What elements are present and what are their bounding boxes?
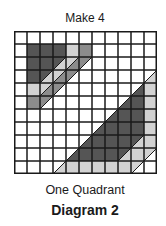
diagram-title: Make 4 (0, 11, 166, 25)
grid-cell (105, 161, 118, 174)
diagram-label: Diagram 2 (0, 202, 166, 218)
grid-cell (131, 109, 144, 122)
grid-cell (144, 135, 157, 148)
quadrant-caption: One Quadrant (0, 183, 166, 197)
grid-cell (92, 148, 105, 161)
grid-drawing (14, 31, 157, 174)
grid-cell (105, 148, 118, 161)
grid-cell (27, 44, 40, 57)
grid-cell (131, 122, 144, 135)
grid-cell (92, 135, 105, 148)
grid-cell (144, 96, 157, 109)
grid-cell (27, 83, 40, 96)
grid-cell (92, 161, 105, 174)
grid-cell (131, 96, 144, 109)
grid-cell (118, 122, 131, 135)
grid-cell (79, 161, 92, 174)
grid-cell (105, 135, 118, 148)
grid-cell (131, 148, 144, 161)
grid-cell (53, 44, 66, 57)
grid-cell (40, 44, 53, 57)
grid-cell (118, 161, 131, 174)
grid-cell (40, 57, 53, 70)
grid-cell (144, 83, 157, 96)
grid-cell (66, 161, 79, 174)
grid-cell (79, 148, 92, 161)
grid-cell (27, 57, 40, 70)
grid-cell (105, 122, 118, 135)
grid-cell (118, 109, 131, 122)
grid-cell (144, 109, 157, 122)
grid-cell (144, 122, 157, 135)
grid-cell (27, 70, 40, 83)
grid-cell (118, 135, 131, 148)
quadrant-grid (14, 31, 157, 174)
grid-cell (27, 96, 40, 109)
grid-cell (79, 44, 92, 57)
grid-cell (66, 44, 79, 57)
